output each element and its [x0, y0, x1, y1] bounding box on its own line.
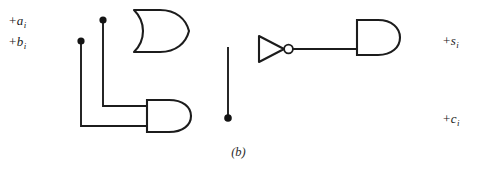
input-a-subscript: i: [24, 20, 27, 30]
junction-dot-carry: [224, 114, 232, 122]
output-s-subscript: i: [456, 40, 459, 50]
and-gate-carry[interactable]: [147, 100, 191, 132]
input-b-name: b: [17, 34, 24, 49]
branch-a-to-and: [103, 20, 148, 106]
input-label-b: +bi: [9, 34, 26, 51]
branch-b-to-and: [81, 41, 148, 126]
and-gate-sum[interactable]: [357, 20, 400, 55]
inverter-bubble-icon: [284, 45, 293, 54]
output-s-sign: +: [443, 33, 451, 48]
carry-feedback-wire: [228, 47, 259, 118]
input-label-a: +ai: [9, 13, 26, 30]
output-c-sign: +: [443, 111, 451, 126]
or-gate[interactable]: [134, 10, 189, 52]
output-c-name: c: [451, 111, 457, 126]
junction-dot-a: [99, 16, 106, 23]
logic-circuit-figure: +ai +bi +si +ci (b): [0, 0, 477, 174]
output-c-subscript: i: [457, 118, 460, 128]
input-b-subscript: i: [24, 41, 27, 51]
input-a-name: a: [17, 13, 24, 28]
junction-dot-b: [77, 37, 84, 44]
input-b-sign: +: [9, 34, 17, 49]
inverter-gate[interactable]: [259, 36, 293, 62]
figure-caption: (b): [0, 145, 477, 160]
output-label-s: +si: [443, 33, 459, 50]
input-a-sign: +: [9, 13, 17, 28]
output-label-c: +ci: [443, 111, 460, 128]
